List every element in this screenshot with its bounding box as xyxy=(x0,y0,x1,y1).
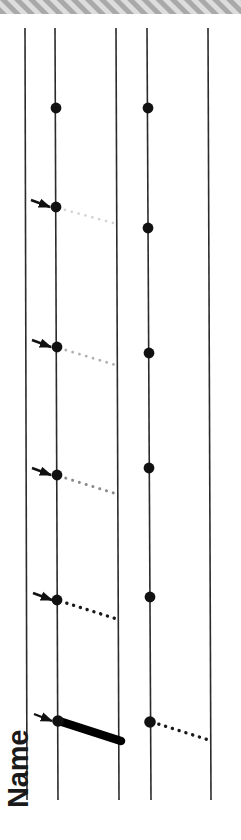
vertical-line-5 xyxy=(208,28,211,800)
nodes-group xyxy=(51,103,156,728)
figure-canvas: Name xyxy=(0,0,241,840)
vertical-line-1 xyxy=(25,28,27,800)
pointer-arrow xyxy=(34,714,52,721)
vertical-line-4 xyxy=(147,28,151,800)
pointer-arrow xyxy=(33,593,52,600)
connector-medium xyxy=(59,476,120,495)
locus-node xyxy=(143,223,154,234)
connector-very-faint xyxy=(58,208,117,224)
locus-node xyxy=(51,202,62,213)
locus-node xyxy=(143,103,154,114)
connector-faint xyxy=(59,348,119,366)
connector-solid xyxy=(59,721,121,741)
locus-node xyxy=(51,103,62,114)
pointer-arrow xyxy=(32,340,51,347)
locus-node xyxy=(52,342,63,353)
locus-node xyxy=(144,716,156,728)
axis-label-text: Name xyxy=(2,730,34,808)
arrows-group xyxy=(31,200,52,721)
figure-root: Name xyxy=(0,0,241,840)
locus-node xyxy=(52,715,64,727)
pointer-arrow xyxy=(32,468,51,475)
connector-dark xyxy=(152,722,212,741)
locus-node xyxy=(52,470,63,481)
locus-node xyxy=(52,595,63,606)
locus-node xyxy=(144,463,155,474)
vertical-line-3 xyxy=(116,28,119,800)
vertical-lines-group xyxy=(25,28,211,800)
connectors-group xyxy=(58,208,212,741)
locus-node xyxy=(144,348,155,359)
hatched-header-band xyxy=(0,0,241,14)
locus-node xyxy=(145,592,156,603)
pointer-arrow xyxy=(31,200,50,207)
axis-label: Name xyxy=(2,730,34,808)
connector-dark xyxy=(60,601,120,620)
vertical-line-2 xyxy=(55,28,58,800)
